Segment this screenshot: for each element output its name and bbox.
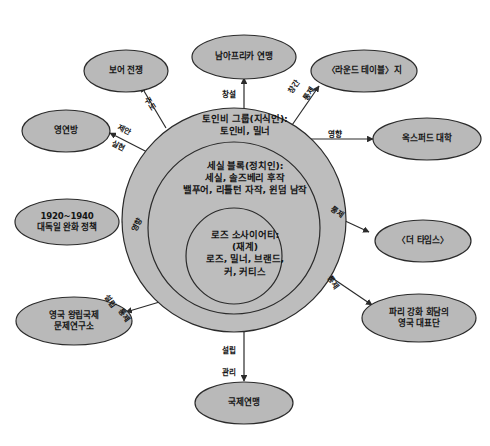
ring-inner-members-2: 커, 커티스 xyxy=(0,266,490,278)
edge-label-league-of-nations-2: 관리 xyxy=(222,366,236,377)
node-round-table-shape[interactable] xyxy=(311,50,417,92)
diagram-canvas: 토인비 그룹(지식인): 토인비, 밀너 세실 블록(정치인): 세실, 솔즈베… xyxy=(0,0,490,446)
node-south-africa-union-shape[interactable] xyxy=(192,35,296,79)
node-league-of-nations-shape[interactable] xyxy=(195,382,293,424)
ring-inner-label: 로즈 소사이어티: (재계) 로즈, 밀너, 브랜드, 커, 커티스 xyxy=(0,229,490,278)
ring-inner-title: 로즈 소사이어티: xyxy=(211,229,279,240)
edge-label-league-of-nations-1: 설립 xyxy=(222,344,236,355)
shape-layer xyxy=(0,0,490,446)
ring-inner-subtitle: (재계) xyxy=(0,241,490,253)
node-paris-delegation-shape[interactable] xyxy=(362,294,476,342)
ring-inner-members-1: 로즈, 밀너, 브랜드, xyxy=(0,253,490,265)
ring-middle-members-2: 밸푸어, 리틀턴 자작, 윈덤 남작 xyxy=(0,184,490,196)
ring-middle-label: 세실 블록(정치인): 세실, 솔즈베리 후작 밸푸어, 리틀턴 자작, 윈덤 … xyxy=(0,160,490,197)
node-boer-war-shape[interactable] xyxy=(84,50,168,92)
edge-label-south-africa-union: 창설 xyxy=(222,88,236,99)
ring-outer-members: 토인비, 밀너 xyxy=(0,125,490,137)
ring-middle-members-1: 세실, 솔즈베리 후작 xyxy=(0,172,490,184)
ring-outer-title: 토인비 그룹(지식인): xyxy=(202,113,287,124)
ring-outer-label: 토인비 그룹(지식인): 토인비, 밀너 xyxy=(0,113,490,137)
ring-middle-title: 세실 블록(정치인): xyxy=(207,160,283,171)
edge-label-oxford-university: 영향 xyxy=(328,128,342,139)
